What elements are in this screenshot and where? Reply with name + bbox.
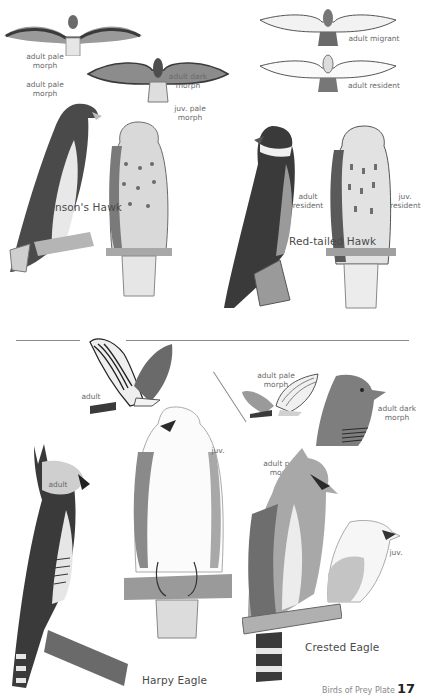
species-title-swainsons-hawk: Swainson's Hawk xyxy=(30,201,122,213)
red-tailed-hawk-adult-resident-illustration xyxy=(220,124,310,310)
label-harpy-perched-juv: juv. xyxy=(210,446,226,455)
page-footer: Birds of Prey Plate17 xyxy=(322,681,415,696)
species-title-crested-eagle: Crested Eagle xyxy=(305,641,379,653)
page-number: 17 xyxy=(397,681,415,696)
swainsons-hawk-flight-dark-illustration xyxy=(86,54,230,106)
harpy-eagle-juvenile-illustration xyxy=(124,402,232,664)
label-crested-head-juv: juv. xyxy=(388,548,404,557)
label-swainsons-perched-juv: juv. pale morph xyxy=(170,104,210,122)
crested-eagle-juvenile-head-illustration xyxy=(320,514,402,604)
crested-eagle-flight-pale-illustration xyxy=(240,370,320,420)
swainsons-hawk-flight-pale-illustration xyxy=(2,8,144,56)
red-tailed-hawk-juvenile-resident-illustration xyxy=(326,124,396,310)
label-harpy-flight-adult: adult xyxy=(78,392,104,401)
label-redtail-flight-migrant: adult migrant xyxy=(344,34,404,43)
label-redtail-perched-juv: juv. resident xyxy=(390,192,420,210)
running-footer-text: Birds of Prey Plate xyxy=(322,686,395,695)
harpy-eagle-adult-illustration xyxy=(8,440,132,692)
section-divider-left xyxy=(16,340,80,341)
label-crested-head-dark: adult dark morph xyxy=(374,404,420,422)
species-title-harpy-eagle: Harpy Eagle xyxy=(142,674,207,686)
swainsons-hawk-adult-pale-illustration xyxy=(4,100,104,275)
label-redtail-flight-resident: adult resident xyxy=(344,81,404,90)
label-swainsons-flight-dark: adult dark morph xyxy=(168,72,208,90)
label-redtail-perched-adult: adult resident xyxy=(290,192,326,210)
label-harpy-perched-adult: adult xyxy=(46,480,70,489)
label-swainsons-perched-pale: adult pale morph xyxy=(22,80,68,98)
species-title-red-tailed-hawk: Red-tailed Hawk xyxy=(289,235,376,247)
label-swainsons-flight-pale: adult pale morph xyxy=(22,52,68,70)
